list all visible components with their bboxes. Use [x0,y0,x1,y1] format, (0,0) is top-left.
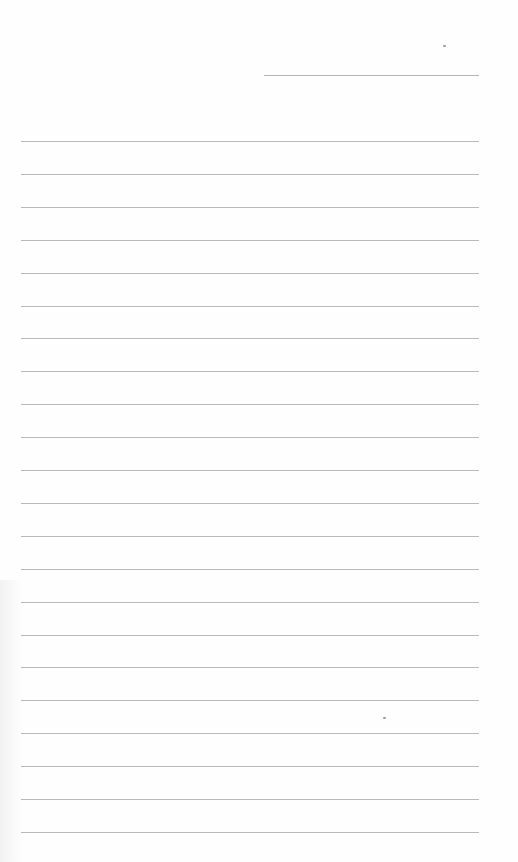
speck-mark [443,45,446,47]
ruled-line [21,503,479,504]
ruled-line [21,635,479,636]
ruled-line [21,404,479,405]
notebook-page [0,0,518,862]
ruled-line [21,371,479,372]
ruled-line [21,470,479,471]
ruled-line [21,207,479,208]
ruled-line [21,569,479,570]
ruled-line [21,832,479,833]
ruled-line [21,338,479,339]
ruled-line [21,667,479,668]
ruled-line [21,700,479,701]
ruled-line [21,174,479,175]
ruled-line [21,602,479,603]
ruled-line [21,306,479,307]
speck-mark [383,717,386,719]
ruled-line [21,799,479,800]
ruled-line [21,766,479,767]
ruled-line [21,273,479,274]
ruled-line [21,141,479,142]
ruled-line [21,536,479,537]
ruled-line [21,437,479,438]
page-edge-shadow [0,580,22,862]
ruled-line [21,733,479,734]
ruled-line [21,240,479,241]
date-line [264,75,479,76]
